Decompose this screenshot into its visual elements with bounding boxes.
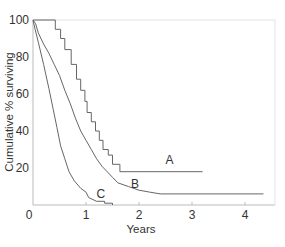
y-tick-label: 60 — [16, 87, 30, 101]
survival-curves — [33, 20, 264, 205]
curve-a — [33, 20, 203, 172]
axes — [33, 20, 275, 205]
y-axis-label: Cumulative % surviving — [3, 52, 15, 172]
y-tick-label: 40 — [16, 124, 30, 138]
curve-label-b: B — [131, 177, 139, 191]
x-tick-label: 0 — [26, 208, 33, 222]
x-tick-label: 1 — [83, 208, 90, 222]
x-tick-label: 3 — [189, 208, 196, 222]
x-tick-label: 2 — [136, 208, 143, 222]
y-tick-label: 100 — [9, 13, 29, 27]
y-tick-label: 80 — [16, 50, 30, 64]
curve-label-a: A — [166, 153, 174, 167]
curve-label-c: C — [97, 187, 106, 201]
x-axis-label: Years — [127, 223, 156, 235]
curve-c — [33, 20, 113, 205]
survival-chart: 20406080100 01234 ABC Years Cumulative %… — [0, 0, 285, 247]
x-tick-label: 4 — [242, 208, 249, 222]
y-tick-label: 20 — [16, 161, 30, 175]
